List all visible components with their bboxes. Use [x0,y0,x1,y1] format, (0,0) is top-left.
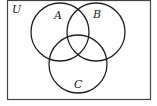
set-c-label: C [74,78,83,91]
venn-diagram: U A B C [0,0,157,106]
set-a-label: A [53,9,62,22]
universe-label: U [12,3,22,16]
set-b-label: B [92,8,101,21]
